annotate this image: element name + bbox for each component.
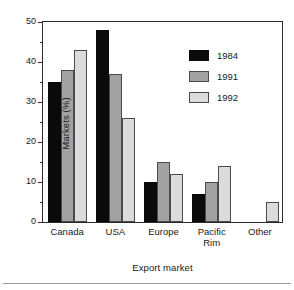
x-axis-label: Export market (42, 262, 283, 273)
legend-item-1991: 1991 (189, 69, 238, 83)
y-tick-label: 40 (26, 56, 36, 66)
bar-1992-Pacific-Rim (218, 166, 231, 222)
legend-label: 1991 (217, 71, 238, 82)
bar-1984-Europe (144, 182, 157, 222)
bar-1992-Other (266, 202, 279, 222)
bar-group-bars (144, 22, 183, 222)
bar-1991-Pacific-Rim (205, 182, 218, 222)
bar-group: Other (240, 22, 279, 222)
legend-item-1984: 1984 (189, 48, 238, 62)
legend: 198419911992 (189, 48, 238, 111)
legend-swatch-1984 (189, 50, 209, 61)
bar-1992-Canada (74, 50, 87, 222)
legend-label: 1992 (217, 92, 238, 103)
legend-swatch-1992 (189, 92, 209, 103)
bar-1992-Europe (170, 174, 183, 222)
bar-chart-figure: 01020304050 CanadaUSAEuropePacific RimOt… (0, 0, 294, 290)
bar-1992-USA (122, 118, 135, 222)
bar-1984-USA (96, 30, 109, 222)
bar-group: USA (96, 22, 135, 222)
plot-area: 01020304050 CanadaUSAEuropePacific RimOt… (42, 21, 283, 223)
bar-group-bars (96, 22, 135, 222)
legend-item-1992: 1992 (189, 90, 238, 104)
bar-group-bars (240, 22, 279, 222)
bar-1991-Other (253, 220, 266, 222)
bar-groups: CanadaUSAEuropePacific RimOther (43, 22, 282, 222)
y-tick-label: 30 (26, 96, 36, 106)
legend-swatch-1991 (189, 71, 209, 82)
x-tick-label: Europe (148, 227, 179, 238)
bar-1984-Other (240, 220, 253, 222)
bar-group: Europe (144, 22, 183, 222)
y-axis-label: Markets (%) (60, 54, 71, 194)
x-tick-label: USA (106, 227, 126, 238)
bottom-divider (3, 283, 291, 284)
bar-1991-Europe (157, 162, 170, 222)
y-tick-label: 50 (26, 16, 36, 26)
x-tick-label: Pacific Rim (198, 227, 226, 248)
bar-1991-USA (109, 74, 122, 222)
y-tick-label: 0 (31, 216, 36, 226)
legend-label: 1984 (217, 50, 238, 61)
bar-1984-Pacific-Rim (192, 194, 205, 222)
y-tick-label: 20 (26, 136, 36, 146)
x-tick-label: Other (248, 227, 272, 238)
y-tick-label: 10 (26, 176, 36, 186)
x-tick-label: Canada (50, 227, 83, 238)
